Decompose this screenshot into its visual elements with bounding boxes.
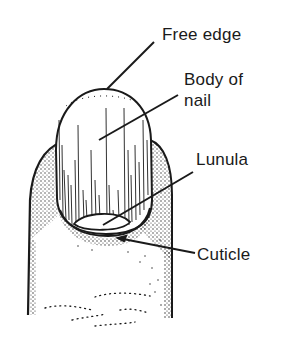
finger-right-stipple [164,250,172,318]
knuckle-creases [45,293,150,326]
label-body-of-nail: Body of nail [184,69,243,111]
label-body-of-nail-line1: Body of [184,69,243,90]
label-lunula: Lunula [196,149,248,170]
leader-free-edge [107,42,154,89]
nail-plate [56,89,152,234]
label-body-of-nail-line2: nail [184,90,243,111]
label-free-edge: Free edge [162,24,241,45]
finger-left-stipple [30,240,36,315]
label-cuticle: Cuticle [197,244,250,265]
fingernail-diagram [0,0,285,345]
